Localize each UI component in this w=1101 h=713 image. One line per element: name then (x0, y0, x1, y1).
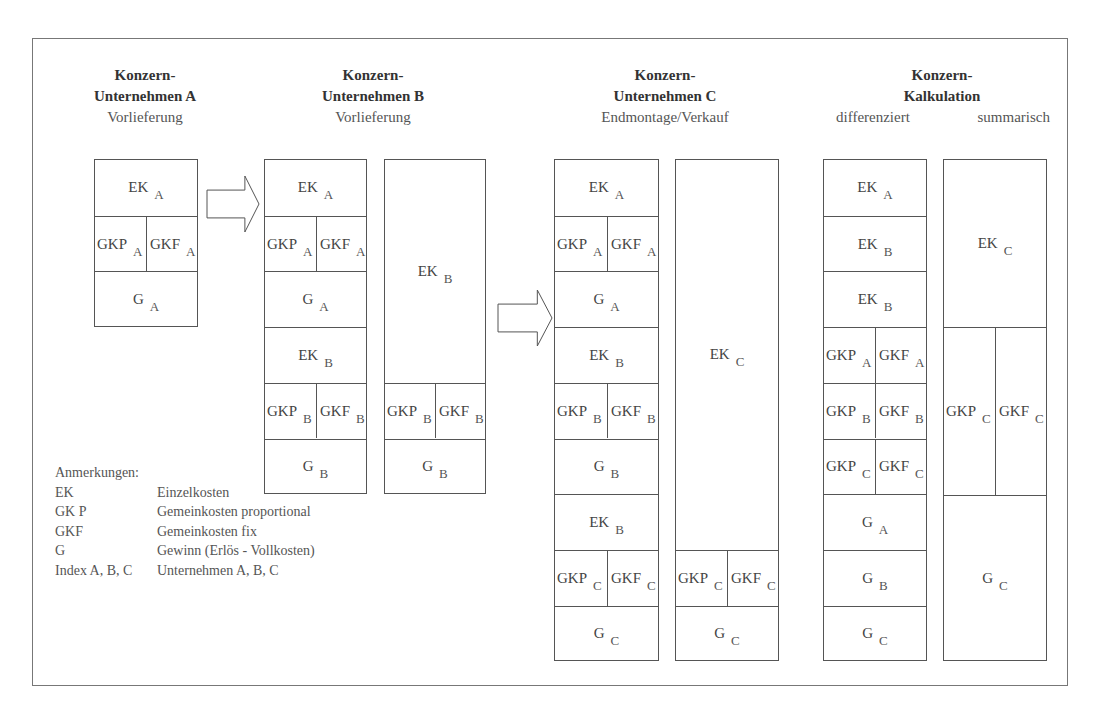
header-description: Vorlieferung (263, 107, 483, 128)
cell-label: GKPB (387, 403, 432, 420)
company-index: C (647, 578, 656, 593)
cost-cell: GKFC (995, 327, 1046, 495)
cost-type: GKP (97, 236, 127, 252)
cost-type: G (302, 291, 313, 307)
cost-type: EK (857, 179, 877, 195)
cell-label: EKB (589, 514, 624, 531)
cost-type: GKF (150, 236, 180, 252)
cell-label: GKPA (826, 347, 871, 364)
cell-label: EKB (858, 291, 893, 308)
cost-type: GKF (879, 403, 909, 419)
company-index: C (731, 633, 740, 648)
cell-label: GKPA (267, 236, 312, 253)
legend-item: GK PGemeinkosten proportional (55, 502, 315, 522)
cost-type: GKF (611, 403, 641, 419)
legend-title: Anmerkungen: (55, 463, 315, 483)
cost-cell: GKFA (316, 216, 366, 272)
cost-cell: GKPB (555, 383, 607, 439)
cell-label: GC (714, 625, 740, 642)
cost-cell: GKFB (607, 383, 658, 439)
cell-label: EKB (589, 347, 624, 364)
column-kalkulation-summarisch: EKCGKPCGKFCGC (943, 159, 1047, 661)
cost-type: EK (298, 347, 318, 363)
legend-value: Einzelkosten (157, 483, 229, 503)
cost-cell: GKFC (727, 550, 778, 606)
cost-cell: GKPC (676, 550, 727, 606)
cost-cell: EKC (944, 160, 1046, 327)
company-index: A (610, 299, 619, 314)
cell-label: GA (862, 514, 888, 531)
cost-type: GKF (879, 347, 909, 363)
cost-type: G (862, 625, 873, 641)
column-unternehmen-c-summary: EKCGKPCGKFCGC (675, 159, 779, 661)
cost-cell: EKB (824, 216, 926, 272)
legend-item: GGewinn (Erlös - Vollkosten) (55, 541, 315, 561)
cost-cell: EKB (824, 271, 926, 327)
header-subtitle: Unternehmen A (35, 86, 255, 107)
legend-key: GKF (55, 522, 157, 542)
cell-label: GA (593, 291, 619, 308)
company-index: A (150, 299, 159, 314)
cell-label: GKPC (557, 570, 602, 587)
cell-label: GKPC (946, 403, 991, 420)
cost-type: G (982, 570, 993, 586)
legend: Anmerkungen: EKEinzelkostenGK PGemeinkos… (55, 463, 315, 580)
cell-label: GB (862, 570, 888, 587)
cell-label: GKFA (879, 347, 924, 364)
cost-type: EK (978, 235, 998, 251)
cost-cell: GKPB (385, 383, 435, 439)
company-index: C (736, 354, 745, 369)
cell-label: EKA (298, 179, 333, 196)
company-index: C (915, 466, 924, 481)
cost-type: EK (418, 263, 438, 279)
cost-cell: GKPB (824, 383, 875, 439)
company-index: B (475, 411, 484, 426)
column-unternehmen-a: EKAGKPAGKFAGA (94, 159, 198, 327)
legend-item: Index A, B, CUnternehmen A, B, C (55, 561, 315, 581)
cell-label: GKFC (731, 570, 776, 587)
company-index: A (186, 244, 195, 259)
header-title: Konzern- (832, 65, 1052, 86)
company-index: B (356, 411, 365, 426)
cell-label: EKA (857, 179, 892, 196)
company-index: C (611, 633, 620, 648)
cell-label: GB (422, 458, 448, 475)
cost-type: GKP (826, 458, 856, 474)
cost-type: G (862, 570, 873, 586)
cell-label: GKPB (826, 403, 871, 420)
right-arrow-icon (206, 175, 260, 233)
header-subtitle: Unternehmen B (263, 86, 483, 107)
cell-label: GKFC (879, 458, 924, 475)
header-description: Endmontage/Verkauf (555, 107, 775, 128)
cost-type: GKP (557, 403, 587, 419)
column-unternehmen-b-summary: EKBGKPBGKFBGB (384, 159, 486, 494)
company-index: C (1004, 243, 1013, 258)
company-index: B (423, 411, 432, 426)
column-kalkulation-differenziert: EKAEKBEKBGKPAGKFAGKPBGKFBGKPCGKFCGAGBGC (823, 159, 927, 661)
cell-label: EKC (710, 346, 745, 363)
cost-type: GKF (611, 236, 641, 252)
cell-label: GKPB (267, 403, 312, 420)
header-subtitle: Unternehmen C (555, 86, 775, 107)
company-index: B (647, 411, 656, 426)
cost-type: GKF (320, 236, 350, 252)
header-description: Vorlieferung (35, 107, 255, 128)
cost-cell: EKB (555, 327, 658, 383)
legend-key: GK P (55, 502, 157, 522)
cost-type: GKF (879, 458, 909, 474)
cost-cell: GA (95, 271, 197, 327)
company-index: B (915, 411, 924, 426)
cost-type: GKF (439, 403, 469, 419)
cost-type: G (422, 458, 433, 474)
cost-cell: EKA (555, 160, 658, 216)
company-index: C (767, 578, 776, 593)
company-index: C (1035, 411, 1044, 426)
header-description-right: summarisch (978, 107, 1051, 128)
cost-cell: GKPA (95, 216, 146, 272)
cost-cell: GKFA (607, 216, 658, 272)
cell-label: GKFB (439, 403, 484, 420)
cell-label: EKA (128, 179, 163, 196)
cost-cell: GB (824, 550, 926, 606)
cell-label: GKFB (611, 403, 656, 420)
legend-item: GKFGemeinkosten fix (55, 522, 315, 542)
